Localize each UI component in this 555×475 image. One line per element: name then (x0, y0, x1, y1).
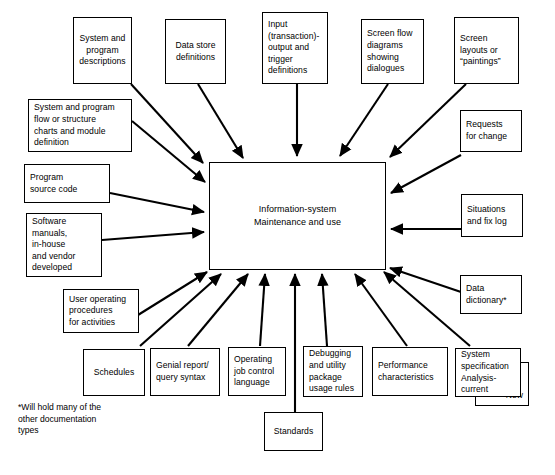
arrow-screen-flow-diagrams (340, 84, 388, 156)
node-schedules[interactable]: Schedules (83, 349, 145, 396)
node-label: Software manuals, in-house and vendor de… (32, 216, 96, 274)
node-screen-flow-diagrams[interactable]: Screen flow diagrams showing dialogues (361, 19, 424, 84)
node-input-output-trigger-definitions[interactable]: Input (transaction)- output and trigger … (262, 12, 328, 84)
node-requests-for-change[interactable]: Requests for change (460, 110, 522, 152)
node-label: Screen flow diagrams showing dialogues (367, 28, 418, 74)
arrow-data-store-definitions (198, 84, 243, 158)
arrow-operating-job-control (260, 274, 265, 346)
arrow-system-program-flow-charts (132, 121, 205, 182)
node-label: System specification Analysis- current (461, 349, 515, 395)
node-system-program-flow-charts[interactable]: System and program flow or structure cha… (28, 99, 132, 152)
arrow-screen-layouts (390, 84, 466, 157)
node-screen-layouts-paintings[interactable]: Screen layouts or “paintings” (454, 17, 519, 84)
node-label: Debugging and utility package usage rule… (309, 348, 357, 394)
footnote-text: *Will hold many of the other documentati… (18, 402, 101, 437)
node-label: Standards (270, 426, 317, 438)
node-label: Operating job control language (234, 354, 280, 389)
node-standards[interactable]: Standards (264, 412, 323, 451)
arrow-user-operating-procedures (138, 272, 207, 315)
node-label: Genial report/ query syntax (156, 360, 214, 383)
node-data-dictionary[interactable]: Data dictionary* (460, 275, 522, 314)
arrow-genial-report-query (188, 274, 248, 346)
node-label: Data dictionary* (466, 283, 516, 306)
node-label: Program source code (30, 172, 104, 195)
node-label: System and program descriptions (79, 33, 126, 68)
diagram-canvas: System and program descriptions Data sto… (0, 0, 555, 475)
node-label: System and program flow or structure cha… (34, 102, 126, 148)
node-label: Screen layouts or “paintings” (460, 33, 513, 68)
node-label: User operating procedures for activities (69, 294, 133, 329)
node-program-source-code[interactable]: Program source code (24, 164, 110, 203)
center-label: Information-system Maintenance and use (215, 203, 380, 230)
node-data-store-definitions[interactable]: Data store definitions (165, 19, 226, 84)
node-label: Situations and fix log (467, 204, 517, 227)
arrow-data-dictionary (390, 268, 461, 292)
arrow-performance-characteristics (355, 274, 407, 346)
node-center-information-system[interactable]: Information-system Maintenance and use (209, 162, 386, 270)
node-label: Performance characteristics (378, 360, 442, 383)
node-label: Requests for change (466, 119, 516, 142)
arrow-system-program-descriptions (131, 84, 203, 163)
node-label: Data store definitions (171, 40, 220, 63)
node-system-program-descriptions[interactable]: System and program descriptions (73, 17, 132, 84)
node-genial-report-query-syntax[interactable]: Genial report/ query syntax (150, 348, 220, 396)
node-software-manuals[interactable]: Software manuals, in-house and vendor de… (26, 213, 102, 277)
node-system-specification[interactable]: System specification Analysis- current (455, 348, 521, 397)
node-label: Input (transaction)- output and trigger … (268, 19, 322, 77)
arrow-schedules (140, 274, 221, 346)
arrow-requests-for-change (391, 155, 461, 193)
arrow-system-specification (384, 272, 470, 346)
arrow-debugging-utility (322, 274, 327, 346)
arrow-software-manuals (102, 232, 204, 240)
node-debugging-utility-package[interactable]: Debugging and utility package usage rule… (303, 346, 363, 397)
node-operating-job-control-language[interactable]: Operating job control language (228, 347, 286, 396)
node-performance-characteristics[interactable]: Performance characteristics (372, 347, 448, 396)
arrow-program-source-code (110, 193, 204, 212)
node-situations-and-fix-log[interactable]: Situations and fix log (461, 194, 523, 237)
node-label: Schedules (89, 367, 139, 379)
node-user-operating-procedures[interactable]: User operating procedures for activities (63, 289, 139, 333)
